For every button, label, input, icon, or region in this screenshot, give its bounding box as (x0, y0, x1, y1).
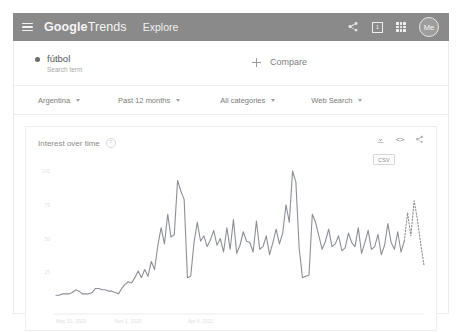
plus-icon (252, 58, 261, 67)
card-header: Interest over time ? <> CSV (26, 127, 436, 157)
share-icon[interactable] (415, 135, 424, 144)
embed-code-icon[interactable]: <> (396, 135, 404, 144)
y-axis-tick-label: 100 (42, 168, 51, 174)
y-axis-tick-label: 50 (44, 236, 50, 242)
filter-category[interactable]: All categories (220, 96, 275, 105)
card-toolbar: <> (376, 135, 424, 144)
interest-over-time-chart: 100755025May 31, 2020Nov 1, 2020Apr 4, 2… (26, 157, 436, 332)
apps-grid-icon[interactable] (396, 22, 406, 32)
page-content: fútbol Search term Compare Argentina Pas… (13, 41, 449, 314)
x-axis-tick-label: May 31, 2020 (56, 318, 87, 324)
filter-category-label: All categories (220, 96, 265, 105)
search-term-chip[interactable]: fútbol Search term (35, 53, 82, 75)
download-icon[interactable] (376, 135, 385, 144)
series-color-dot (35, 57, 40, 62)
chevron-down-icon (176, 99, 180, 102)
avatar[interactable]: Me (419, 17, 439, 37)
query-row: fútbol Search term Compare (14, 41, 448, 85)
share-icon[interactable] (347, 21, 359, 33)
filter-search-type[interactable]: Web Search (311, 96, 362, 105)
chart-svg: 100755025May 31, 2020Nov 1, 2020Apr 4, 2… (26, 157, 438, 332)
y-axis-tick-label: 75 (44, 202, 50, 208)
interest-over-time-card: Interest over time ? <> CSV 100755025Ma (25, 126, 437, 331)
card-title: Interest over time (38, 139, 100, 148)
search-term-label: fútbol (47, 53, 82, 64)
chart-line-futbol (56, 171, 404, 295)
chevron-down-icon (358, 99, 362, 102)
chevron-down-icon (271, 99, 275, 102)
brand-google: Google (44, 20, 88, 34)
notifications-badge-icon[interactable]: 1 (372, 22, 383, 33)
nav-explore[interactable]: Explore (143, 21, 179, 33)
brand-logo[interactable]: GoogleTrends (44, 20, 127, 34)
app-bar-actions: 1 Me (347, 17, 439, 37)
add-compare-button[interactable]: Compare (252, 57, 307, 67)
search-term-type: Search term (47, 65, 82, 75)
brand-trends: Trends (88, 20, 127, 34)
compare-label: Compare (270, 57, 307, 67)
top-app-bar: GoogleTrends Explore 1 Me (13, 13, 449, 41)
filter-search-type-label: Web Search (311, 96, 352, 105)
help-circle-icon[interactable]: ? (106, 138, 116, 148)
chevron-down-icon (76, 99, 80, 102)
filter-time-range-label: Past 12 months (118, 96, 170, 105)
chart-line-partial-data (404, 201, 424, 266)
hamburger-menu-icon[interactable] (22, 23, 33, 32)
filter-location[interactable]: Argentina (38, 96, 80, 105)
x-axis-tick-label: Nov 1, 2020 (115, 318, 142, 324)
filter-location-label: Argentina (38, 96, 70, 105)
y-axis-tick-label: 25 (44, 269, 50, 275)
filter-bar: Argentina Past 12 months All categories … (14, 85, 448, 115)
card-title-group: Interest over time ? (38, 138, 116, 148)
x-axis-tick-label: Apr 4, 2021 (188, 318, 214, 324)
filter-time-range[interactable]: Past 12 months (118, 96, 180, 105)
